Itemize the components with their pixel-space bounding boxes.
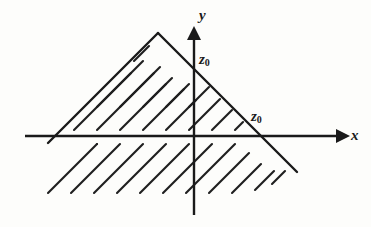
z0-x-subscript: 0 — [257, 114, 262, 125]
hatch-line — [209, 153, 249, 193]
z0-label-y-intercept: z0 — [199, 52, 210, 67]
z0-label-x-intercept: z0 — [251, 109, 262, 124]
hatch-line — [143, 67, 160, 84]
hatch-line — [166, 89, 184, 107]
hatch-line — [71, 144, 120, 193]
hatch-line — [163, 144, 212, 193]
x-axis-arrowhead — [336, 129, 350, 143]
z0-x-base: z — [251, 108, 257, 124]
z0-y-subscript: 0 — [205, 57, 210, 68]
hatch-line — [48, 144, 97, 193]
hatch-line — [94, 144, 143, 193]
hatch-line — [117, 144, 166, 193]
math-diagram: y x z0 z0 — [0, 0, 371, 227]
hatch-line — [140, 144, 189, 193]
y-axis-label: y — [199, 8, 206, 23]
hatch-line — [143, 78, 172, 107]
hatch-line — [166, 87, 209, 130]
diagram-canvas — [0, 0, 371, 227]
hatch-line — [235, 122, 243, 130]
hatch-line — [255, 171, 274, 190]
hatch-line — [120, 61, 143, 84]
left-edge-line — [48, 33, 158, 143]
x-axis-label: x — [351, 128, 359, 143]
z0-y-base: z — [199, 51, 205, 67]
hatch-line — [212, 110, 232, 130]
x-axis — [25, 129, 350, 143]
hatch-line — [272, 171, 285, 184]
hatch-group — [48, 46, 285, 193]
y-axis-arrowhead — [187, 26, 201, 40]
